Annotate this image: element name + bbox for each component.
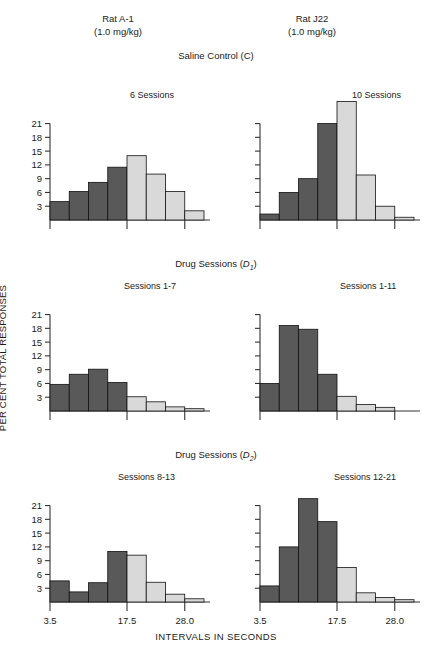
y-tick-label: 9 (37, 555, 42, 566)
y-tick-label: 12 (31, 541, 42, 552)
column-header-rat-a1: Rat A-1 (1.0 mg/kg) (58, 12, 178, 38)
panel-saline-rat-j22 (224, 92, 420, 242)
histogram-bar (69, 592, 88, 602)
histogram-bar (69, 192, 88, 220)
y-tick-label: 6 (37, 187, 42, 198)
histogram-bar (89, 182, 108, 220)
section-header-label: Drug Sessions ( (175, 449, 243, 460)
y-tick-label: 3 (37, 583, 42, 594)
y-tick-label: 6 (37, 569, 42, 580)
histogram-bar (146, 174, 165, 220)
y-tick-label: 18 (31, 132, 42, 143)
x-tick-label: 17.5 (118, 615, 137, 624)
plot-area-saline-j22 (224, 92, 420, 242)
x-tick-label: 3.5 (253, 615, 266, 624)
histogram-bar (318, 124, 337, 220)
histogram-bar (50, 581, 69, 602)
histogram-bar (356, 405, 375, 411)
y-tick-label: 3 (37, 392, 42, 403)
histogram-bar (279, 326, 298, 411)
plot-area-d2-a1: 369121518213.517.528.0 (14, 474, 210, 624)
plot-area-d2-j22: 3.517.528.0 (224, 474, 420, 624)
y-axis-label: PER CENT TOTAL RESPONSES (0, 88, 8, 268)
column-header-name: Rat J22 (296, 13, 329, 24)
histogram-bar (395, 217, 414, 220)
histogram-bar (108, 551, 127, 602)
histogram-bar (185, 599, 204, 602)
histogram-bar (127, 397, 146, 411)
column-header-name: Rat A-1 (102, 13, 134, 24)
y-tick-label: 21 (31, 309, 42, 320)
histogram-bar (108, 383, 127, 411)
panel-d2-rat-j22: 3.517.528.0 (224, 474, 420, 624)
histogram-bar (108, 167, 127, 220)
histogram-bar (89, 369, 108, 411)
y-tick-label: 18 (31, 514, 42, 525)
y-tick-label: 15 (31, 337, 42, 348)
histogram-bar (376, 597, 395, 602)
y-tick-label: 6 (37, 378, 42, 389)
histogram-bar (376, 407, 395, 411)
histogram-bar (185, 409, 204, 411)
histogram-bar (318, 522, 337, 602)
plot-area-d1-a1: 36912151821 (14, 283, 210, 433)
y-tick-label: 15 (31, 528, 42, 539)
histogram-bar (260, 214, 279, 220)
y-axis-label-text: PER CENT TOTAL RESPONSES (0, 268, 8, 448)
y-tick-label: 21 (31, 500, 42, 511)
histogram-bar (89, 583, 108, 602)
histogram-bar (299, 499, 318, 602)
histogram-bar (166, 594, 185, 602)
histogram-bar (318, 374, 337, 411)
histogram-bar (69, 374, 88, 411)
panel-d2-rat-a1: 369121518213.517.528.0 (14, 474, 210, 624)
histogram-bar (395, 600, 414, 602)
histogram-bar (166, 407, 185, 411)
histogram-bar (146, 582, 165, 602)
y-tick-label: 3 (37, 201, 42, 212)
histogram-bar (260, 383, 279, 411)
column-header-dose: (1.0 mg/kg) (252, 25, 372, 38)
y-tick-label: 18 (31, 323, 42, 334)
column-header-rat-j22: Rat J22 (1.0 mg/kg) (252, 12, 372, 38)
histogram-bar (299, 179, 318, 220)
section-header-drug-d2: Drug Sessions (D2) (0, 449, 432, 462)
histogram-bar (127, 156, 146, 220)
y-tick-label: 12 (31, 350, 42, 361)
histogram-bar (50, 202, 69, 220)
figure-canvas: Rat A-1 (1.0 mg/kg) Rat J22 (1.0 mg/kg) … (0, 0, 432, 653)
histogram-bar (127, 555, 146, 602)
x-tick-label: 28.0 (176, 615, 195, 624)
y-tick-label: 12 (31, 159, 42, 170)
x-tick-label: 28.0 (386, 615, 405, 624)
section-header-symbol: D (243, 258, 250, 269)
section-header-suffix: ) (254, 449, 257, 460)
column-header-dose: (1.0 mg/kg) (58, 25, 178, 38)
histogram-bar (50, 384, 69, 411)
section-header-symbol: D (243, 449, 250, 460)
histogram-bar (337, 568, 356, 602)
section-header-label: Saline Control (C) (178, 50, 254, 61)
y-tick-label: 9 (37, 364, 42, 375)
plot-area-d1-j22 (224, 283, 420, 433)
histogram-bar (279, 547, 298, 602)
histogram-bar (146, 402, 165, 411)
histogram-bar (356, 175, 375, 220)
y-tick-label: 9 (37, 173, 42, 184)
section-header-suffix: ) (254, 258, 257, 269)
x-tick-label: 17.5 (328, 615, 347, 624)
panel-d1-rat-j22 (224, 283, 420, 433)
section-header-drug-d1: Drug Sessions (D1) (0, 258, 432, 271)
histogram-bar (185, 211, 204, 220)
plot-area-saline-a1: 36912151821 (14, 92, 210, 242)
histogram-bar (337, 396, 356, 411)
section-header-saline: Saline Control (C) (0, 50, 432, 61)
y-tick-label: 21 (31, 118, 42, 129)
panel-saline-rat-a1: 36912151821 (14, 92, 210, 242)
histogram-bar (376, 206, 395, 220)
histogram-bar (356, 593, 375, 602)
histogram-bar (279, 192, 298, 220)
x-axis-label: INTERVALS IN SECONDS (0, 631, 432, 642)
histogram-bar (260, 586, 279, 602)
x-tick-label: 3.5 (43, 615, 56, 624)
